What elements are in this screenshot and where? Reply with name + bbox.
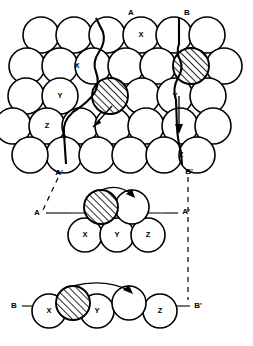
section-aa-label-x: X [82, 230, 87, 239]
plan-atom-label-x1: X [138, 30, 143, 39]
section-bb-label-y: Y [94, 306, 99, 315]
connector-a-prime [42, 178, 58, 212]
section-aa-hatched-atom [84, 190, 118, 224]
lattice-atom [146, 137, 182, 173]
label-a-prime-right: A' [182, 207, 190, 216]
section-bb-label-z: Z [158, 306, 163, 315]
label-a-prime-top: A' [55, 168, 63, 177]
plan-view-group: X X Y Y Z Z A B A' B' [0, 8, 242, 177]
section-bb-label-x: X [46, 306, 51, 315]
lattice-atom [112, 137, 148, 173]
section-aa-label-y: Y [114, 230, 119, 239]
label-b-prime-top: B' [185, 167, 193, 176]
label-a-top: A [128, 8, 134, 17]
label-b-prime-right: B' [194, 301, 202, 310]
plan-atom-label-z1: Z [45, 121, 50, 130]
figure-container: X X Y Y Z Z A B A' B' [0, 0, 253, 346]
section-aa-label-z: Z [146, 230, 151, 239]
crystal-lattice-diagram: X X Y Y Z Z A B A' B' [0, 0, 253, 346]
section-bb-group: B B' X Y Z [11, 283, 202, 328]
lattice-atom [12, 137, 48, 173]
plan-atom-label-y1: Y [57, 91, 62, 100]
label-b-top: B [184, 8, 190, 17]
section-bb-hatched-atom [56, 286, 90, 320]
plan-atom-label-x2: X [74, 61, 79, 70]
label-b-left: B [11, 301, 17, 310]
section-aa-group: A A' X Y Z [34, 187, 190, 252]
label-a-left: A [34, 208, 40, 217]
lattice-atom [79, 137, 115, 173]
